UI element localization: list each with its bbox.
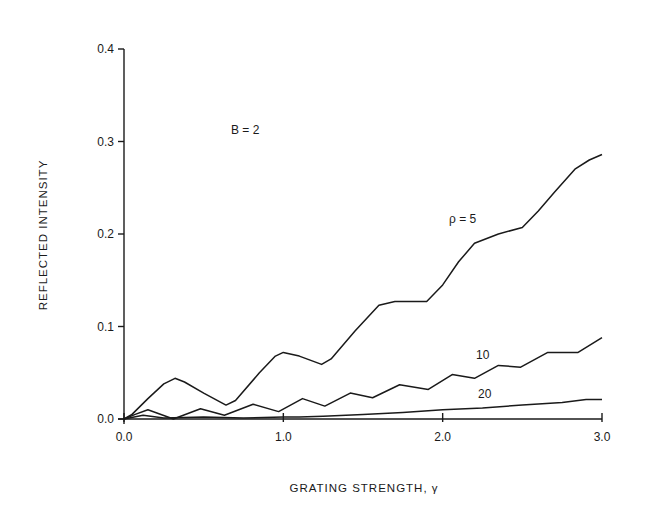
label-rho-20: 20 [478,387,492,401]
series-line-2 [124,400,602,419]
annotation-b-value: B = 2 [231,123,260,137]
y-axis-title: REFLECTED INTENSITY [37,160,49,311]
series-line-0 [124,155,602,420]
label-rho-5: ρ = 5 [449,212,477,226]
axes [118,49,602,424]
x-tick-label: 2.0 [434,430,451,444]
y-ticks: 0.00.10.20.30.4 [97,42,124,426]
x-tick-label: 3.0 [594,430,611,444]
line-chart: 0.00.10.20.30.4 0.01.02.03.0 REFLECTED I… [0,0,645,514]
label-rho-10: 10 [476,348,490,362]
series-line-1 [124,338,602,419]
x-tick-label: 0.0 [116,430,133,444]
y-tick-label: 0.2 [97,227,114,241]
y-tick-label: 0.3 [97,135,114,149]
series-group [124,155,602,420]
y-tick-label: 0.0 [97,412,114,426]
y-tick-label: 0.4 [97,42,114,56]
x-axis-title: GRATING STRENGTH, γ [289,482,438,494]
x-tick-label: 1.0 [275,430,292,444]
y-tick-label: 0.1 [97,320,114,334]
